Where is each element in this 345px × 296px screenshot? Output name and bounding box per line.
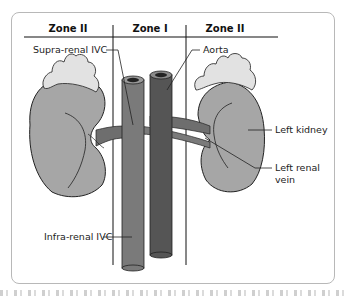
zone-label-center: Zone I [132,23,167,34]
aorta [150,71,172,258]
renal-vessels [88,116,210,148]
label-left-kidney: Left kidney [275,124,328,135]
label-infra-renal-ivc: Infra-renal IVC [44,231,113,242]
label-left-renal-vein-line1: Left renal [275,162,320,173]
label-left-renal-vein-line2: vein [275,174,295,185]
cropped-caption-text [0,290,345,296]
right-kidney [30,78,106,197]
zone-label-right: Zone II [206,23,245,34]
zone-label-left: Zone II [49,23,88,34]
label-supra-renal-ivc: Supra-renal IVC [33,44,108,55]
label-aorta: Aorta [203,44,229,55]
ivc [122,76,144,271]
left-kidney [198,82,265,192]
